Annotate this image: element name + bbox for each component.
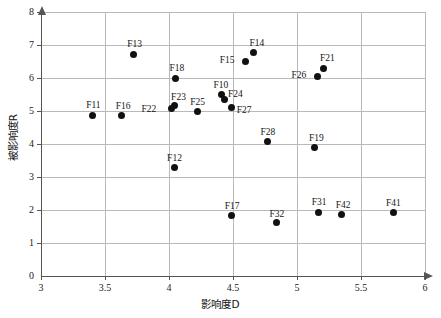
gridline-horizontal xyxy=(41,111,425,112)
data-point-label: F32 xyxy=(270,209,285,219)
x-axis-tick xyxy=(361,276,362,280)
gridline-horizontal xyxy=(41,78,425,79)
data-point-label: F12 xyxy=(167,153,182,163)
x-axis-tick xyxy=(297,276,298,280)
y-axis-tick-label: 5 xyxy=(18,105,34,116)
data-point[interactable] xyxy=(171,164,178,171)
data-point[interactable] xyxy=(130,51,137,58)
data-point[interactable] xyxy=(320,65,327,72)
y-axis-tick-label: 7 xyxy=(18,39,34,50)
data-point-label: F16 xyxy=(116,101,131,111)
data-point-label: F10 xyxy=(213,80,228,90)
gridline-horizontal xyxy=(41,12,425,13)
x-axis-tick-label: 5 xyxy=(282,282,312,293)
data-point-label: F18 xyxy=(169,63,184,73)
y-axis-tick xyxy=(37,12,41,13)
data-point-label: F42 xyxy=(336,200,351,210)
y-axis-tick-label: 3 xyxy=(18,171,34,182)
x-axis-tick-label: 4 xyxy=(154,282,184,293)
data-point-label: F28 xyxy=(261,127,276,137)
data-point-label: F41 xyxy=(386,198,401,208)
x-axis-tick xyxy=(169,276,170,280)
y-axis-tick-label: 2 xyxy=(18,204,34,215)
data-point-label: F31 xyxy=(312,197,327,207)
gridline-vertical xyxy=(425,12,426,276)
data-point-label: F15 xyxy=(220,55,235,65)
data-point[interactable] xyxy=(89,112,96,119)
data-point-label: F25 xyxy=(190,97,205,107)
x-axis-line xyxy=(41,276,427,277)
gridline-horizontal xyxy=(41,144,425,145)
y-axis-tick-label: 0 xyxy=(18,270,34,281)
data-point-label: F22 xyxy=(142,104,157,114)
y-axis-tick-label: 8 xyxy=(18,6,34,17)
x-axis-tick-label: 4.5 xyxy=(218,282,248,293)
data-point-label: F11 xyxy=(86,100,100,110)
x-axis-tick-label: 6 xyxy=(410,282,440,293)
data-point-label: F14 xyxy=(249,38,264,48)
data-point-label: F17 xyxy=(225,201,240,211)
data-point-label: F19 xyxy=(309,133,324,143)
x-axis-tick-label: 3.5 xyxy=(90,282,120,293)
y-axis-tick xyxy=(37,177,41,178)
data-point-label: F27 xyxy=(237,105,252,115)
data-point-label: F13 xyxy=(127,39,142,49)
plot-area xyxy=(41,12,425,276)
gridline-horizontal xyxy=(41,177,425,178)
data-point-label: F24 xyxy=(228,89,243,99)
x-axis-tick xyxy=(41,276,42,280)
y-axis-tick-label: 4 xyxy=(18,138,34,149)
x-axis-tick xyxy=(425,276,426,280)
gridline-horizontal xyxy=(41,45,425,46)
x-axis-tick-label: 3 xyxy=(26,282,56,293)
y-axis-tick-label: 1 xyxy=(18,237,34,248)
scatter-chart: 影响度D 被影响度R 33.544.555.56012345678F11F16F… xyxy=(0,0,441,318)
y-axis-line xyxy=(41,14,42,276)
x-axis-tick xyxy=(233,276,234,280)
x-axis-tick xyxy=(105,276,106,280)
gridline-horizontal xyxy=(41,243,425,244)
x-axis-tick-label: 5.5 xyxy=(346,282,376,293)
data-point-label: F26 xyxy=(291,70,306,80)
x-axis-title: 影响度D xyxy=(0,296,441,311)
y-axis-tick xyxy=(37,210,41,211)
data-point-label: F23 xyxy=(171,92,186,102)
y-axis-tick xyxy=(37,78,41,79)
data-point[interactable] xyxy=(172,75,179,82)
y-axis-tick xyxy=(37,45,41,46)
y-axis-tick xyxy=(37,243,41,244)
data-point-label: F21 xyxy=(320,53,335,63)
data-point[interactable] xyxy=(171,102,178,109)
data-point[interactable] xyxy=(314,73,321,80)
y-axis-tick-label: 6 xyxy=(18,72,34,83)
data-point[interactable] xyxy=(221,96,228,103)
y-axis-tick xyxy=(37,144,41,145)
data-point[interactable] xyxy=(315,209,322,216)
y-axis-tick xyxy=(37,111,41,112)
